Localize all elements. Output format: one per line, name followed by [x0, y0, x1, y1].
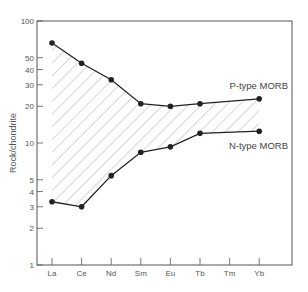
p-type-label: P-type MORB: [229, 80, 288, 91]
y-tick-label: 4: [30, 188, 35, 197]
data-point: [197, 101, 203, 107]
x-tick-label: Nd: [106, 269, 116, 278]
data-point: [108, 173, 114, 179]
y-tick-label: 50: [25, 54, 34, 63]
x-tick-label: Tm: [224, 269, 236, 278]
x-tick-label: Ce: [76, 269, 87, 278]
data-point: [79, 204, 85, 210]
data-point: [49, 199, 55, 205]
data-point: [49, 40, 55, 46]
n-type-label: N-type MORB: [229, 140, 288, 151]
y-tick-label: 100: [21, 17, 35, 26]
y-tick-label: 3: [30, 203, 35, 212]
y-tick-label: 2: [30, 224, 35, 233]
y-tick-label: 10: [25, 139, 34, 148]
hatched-field: [52, 43, 259, 207]
x-tick-label: La: [48, 269, 57, 278]
data-point: [168, 144, 174, 150]
data-point: [168, 103, 174, 109]
x-axis: LaCeNdSmEuTbTmYb: [48, 258, 265, 278]
data-point: [138, 101, 144, 107]
x-tick-label: Yb: [254, 269, 264, 278]
y-axis: 123451020304050100: [21, 17, 43, 270]
y-axis-label: Rock/chondrite: [8, 113, 18, 173]
data-point: [256, 96, 262, 102]
x-tick-label: Eu: [166, 269, 176, 278]
y-tick-label: 5: [30, 176, 35, 185]
data-point: [79, 61, 85, 67]
y-tick-label: 20: [25, 102, 34, 111]
ree-chart: 123451020304050100 LaCeNdSmEuTbTmYb Rock…: [0, 0, 308, 292]
data-point: [197, 131, 203, 137]
data-point: [138, 149, 144, 155]
data-point: [108, 77, 114, 83]
y-tick-label: 40: [25, 66, 34, 75]
y-tick-label: 1: [30, 261, 35, 270]
x-tick-label: Sm: [135, 269, 147, 278]
data-point: [256, 128, 262, 134]
x-tick-label: Tb: [195, 269, 205, 278]
y-tick-label: 30: [25, 81, 34, 90]
